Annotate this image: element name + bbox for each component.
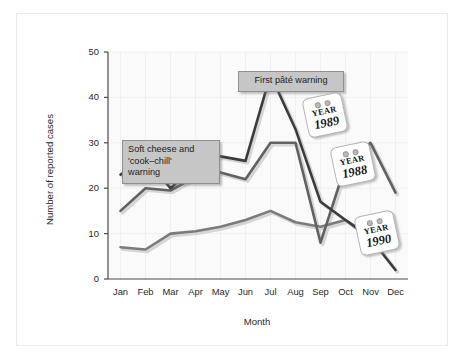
y-tick-label-50: 50 bbox=[75, 46, 99, 57]
annotation-soft-cheese-warning: Soft cheese and 'cook–chill' warning bbox=[122, 140, 220, 184]
annotation-first-pate-warning: First pâté warning bbox=[238, 71, 344, 92]
year-tag-1988: YEAR 1988 bbox=[329, 140, 376, 187]
y-tick-label-40: 40 bbox=[75, 91, 99, 102]
y-axis-title: Number of reported cases bbox=[44, 100, 55, 240]
y-tick-label-10: 10 bbox=[75, 228, 99, 239]
y-tick-label-30: 30 bbox=[75, 137, 99, 148]
year-tag-1990: YEAR 1990 bbox=[353, 209, 400, 256]
year-tag-1989: YEAR 1989 bbox=[301, 91, 348, 138]
y-tick-label-20: 20 bbox=[75, 182, 99, 193]
chart-frame: 50 40 30 20 10 0 Jan Feb Mar Apr May Jun… bbox=[16, 13, 448, 346]
y-tick-label-0: 0 bbox=[75, 273, 99, 284]
figure-container: 50 40 30 20 10 0 Jan Feb Mar Apr May Jun… bbox=[0, 0, 464, 359]
x-tick-label-dec: Dec bbox=[381, 286, 411, 297]
x-axis-title: Month bbox=[197, 316, 317, 327]
